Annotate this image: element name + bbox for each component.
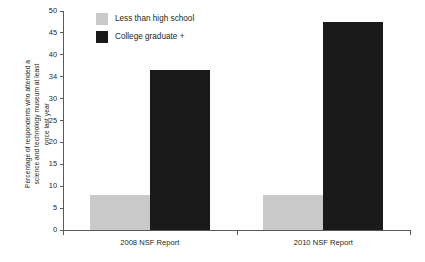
y-axis-tick-mark <box>60 54 63 55</box>
y-axis-tick: 25 <box>41 116 63 126</box>
y-axis-tick-mark <box>60 142 63 143</box>
y-axis-tick-mark <box>60 11 63 12</box>
y-axis-tick: 34 <box>41 72 63 82</box>
y-axis-tick: 45 <box>41 28 63 38</box>
bar <box>150 70 210 230</box>
bar-chart: Percentage of respondents who attended a… <box>0 0 425 262</box>
y-axis-tick-label: 50 <box>49 6 60 16</box>
y-axis-tick-label: 34 <box>49 72 60 82</box>
x-axis-category-label: 2010 NSF Report <box>237 238 411 247</box>
y-axis-tick: 20 <box>41 137 63 147</box>
y-axis-tick-label: 15 <box>49 159 60 169</box>
y-axis-tick-label: 20 <box>49 137 60 147</box>
y-axis-tick-label: 25 <box>49 116 60 126</box>
x-axis-category-label: 2008 NSF Report <box>63 238 237 247</box>
x-axis-separator <box>237 230 238 235</box>
y-axis-tick-label: 40 <box>49 50 60 60</box>
bar <box>90 195 150 230</box>
plot-area: 05101520253034404550 2008 NSF Report2010… <box>63 11 410 230</box>
y-axis-tick: 5 <box>41 203 63 213</box>
y-axis-tick-mark <box>60 120 63 121</box>
x-axis-end-tick <box>410 230 411 235</box>
y-axis-title-line-1: Percentage of respondents who attended a <box>23 60 32 188</box>
y-axis-tick-mark <box>60 32 63 33</box>
y-axis-tick-mark <box>60 164 63 165</box>
y-axis-tick: 10 <box>41 181 63 191</box>
y-axis-tick-mark <box>60 208 63 209</box>
y-axis-tick-label: 10 <box>49 181 60 191</box>
y-axis-tick-mark <box>60 98 63 99</box>
x-axis-end-tick <box>63 230 64 235</box>
y-axis-tick-mark <box>60 76 63 77</box>
bar <box>323 22 383 230</box>
y-axis-tick: 15 <box>41 159 63 169</box>
y-axis-line <box>63 11 64 230</box>
y-axis-tick: 0 <box>41 225 63 235</box>
y-axis-tick-label: 0 <box>53 225 60 235</box>
y-axis-tick-label: 5 <box>53 203 60 213</box>
y-axis-tick-label: 45 <box>49 28 60 38</box>
y-axis-tick: 40 <box>41 50 63 60</box>
y-axis-tick-label: 30 <box>49 94 60 104</box>
y-axis-tick-mark <box>60 186 63 187</box>
y-axis-tick: 30 <box>41 94 63 104</box>
bar <box>263 195 323 230</box>
y-axis-tick: 50 <box>41 6 63 16</box>
